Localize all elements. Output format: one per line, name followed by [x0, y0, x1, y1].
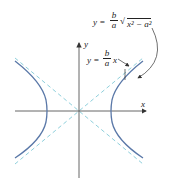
sqrt-sign: √: [120, 17, 125, 26]
curve-eq-lhs: y =: [93, 18, 105, 27]
x-axis-label: x: [141, 100, 145, 109]
asym-eq-rhs: x: [113, 56, 117, 65]
asym-eq-fraction: b a: [103, 49, 111, 68]
asym-eq-lhs: y =: [87, 56, 99, 65]
asymptote-pointer-arrow: [118, 59, 129, 66]
curve-eq-radicand: x² − a²: [127, 18, 151, 29]
y-axis-label: y: [84, 40, 88, 49]
curve-pointer-arrow: [138, 28, 158, 78]
fraction-numerator: b: [110, 11, 118, 20]
hyperbola-right-branch: [111, 61, 143, 158]
fraction-denominator: a: [110, 21, 118, 30]
hyperbola-left-branch: [15, 61, 47, 158]
fraction-denominator: a: [103, 59, 111, 68]
curve-eq-fraction: b a: [110, 11, 118, 30]
fraction-numerator: b: [103, 49, 111, 58]
